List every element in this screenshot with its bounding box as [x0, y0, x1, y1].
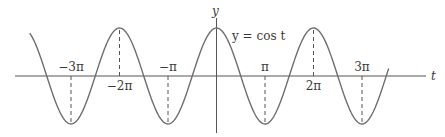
- t-axis-label: t: [431, 69, 436, 83]
- cosine-graph: −3π−2π−ππ2π3π y t y = cos t: [0, 0, 445, 137]
- graph-canvas: −3π−2π−ππ2π3π y t y = cos t: [0, 0, 445, 137]
- tick-label: π: [261, 60, 269, 74]
- tick-label: 3π: [354, 60, 370, 74]
- tick-label: 2π: [306, 79, 322, 93]
- tick-label: −π: [159, 60, 177, 74]
- curve-label: y = cos t: [231, 29, 285, 43]
- tick-label: −3π: [58, 60, 84, 74]
- y-axis-label: y: [211, 4, 219, 18]
- tick-label: −2π: [107, 79, 133, 93]
